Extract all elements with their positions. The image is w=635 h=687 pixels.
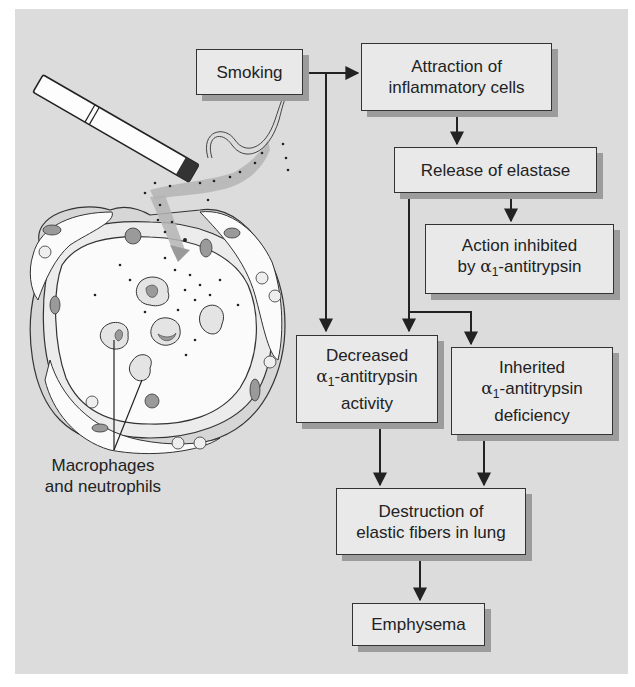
text-suffix: -antitrypsin (498, 257, 581, 276)
node-text-line: α1-antitrypsin (316, 366, 417, 393)
node-text-line: Inherited (499, 357, 565, 378)
text-suffix: -antitrypsin (500, 379, 583, 398)
node-attraction-of-inflammatory-cells: Attraction of inflammatory cells (361, 43, 552, 111)
node-text-line: by α1-antitrypsin (458, 256, 582, 283)
text-suffix: -antitrypsin (335, 367, 418, 386)
node-inherited-antitrypsin-deficiency: Inherited α1-antitrypsin deficiency (451, 347, 613, 435)
text-prefix: by (458, 257, 481, 276)
subscript: 1 (328, 375, 335, 389)
macrophages-neutrophils-label: Macrophages and neutrophils (28, 455, 178, 497)
node-text-line: Destruction of (379, 501, 484, 522)
node-text-line: Action inhibited (462, 235, 577, 256)
node-text-line: elastic fibers in lung (356, 522, 505, 543)
alpha-symbol: α (481, 378, 492, 398)
label-line: and neutrophils (28, 476, 178, 497)
node-text-line: inflammatory cells (388, 77, 524, 98)
node-text-line: α1-antitrypsin (481, 378, 582, 405)
node-emphysema: Emphysema (352, 603, 485, 646)
alpha-symbol: α (480, 256, 491, 276)
node-text-line: deficiency (494, 405, 570, 426)
node-text-line: Release of elastase (421, 160, 570, 181)
node-text-line: Decreased (326, 345, 408, 366)
alpha-symbol: α (316, 366, 327, 386)
node-text-line: Attraction of (411, 56, 502, 77)
node-release-of-elastase: Release of elastase (394, 147, 597, 193)
alveolus-illustration (30, 75, 289, 454)
node-action-inhibited: Action inhibited by α1-antitrypsin (425, 224, 614, 294)
node-text-line: Emphysema (371, 614, 465, 635)
label-line: Macrophages (28, 455, 178, 476)
node-destruction-of-elastic-fibers: Destruction of elastic fibers in lung (336, 488, 526, 555)
node-text-line: activity (341, 393, 393, 414)
subscript: 1 (493, 387, 500, 401)
node-decreased-antitrypsin-activity: Decreased α1-antitrypsin activity (296, 335, 438, 423)
node-smoking: Smoking (196, 49, 303, 95)
node-smoking-text: Smoking (216, 62, 282, 83)
